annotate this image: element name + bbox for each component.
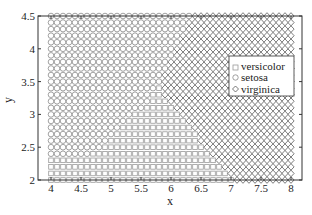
setosa-marker [102, 125, 108, 131]
virginica-marker [240, 105, 246, 112]
setosa-marker [96, 112, 102, 118]
virginica-marker [282, 111, 288, 118]
versicolor-marker [151, 151, 156, 156]
setosa-marker [66, 20, 72, 26]
virginica-marker [198, 124, 204, 131]
virginica-marker [240, 131, 246, 138]
virginica-marker [288, 124, 294, 131]
setosa-marker [54, 66, 60, 72]
setosa-marker [72, 39, 78, 45]
setosa-marker [84, 66, 90, 72]
setosa-marker [84, 33, 90, 39]
versicolor-marker [199, 151, 204, 156]
setosa-marker [120, 46, 126, 52]
versicolor-marker [181, 132, 186, 137]
setosa-marker [96, 125, 102, 131]
setosa-marker [90, 98, 96, 104]
versicolor-marker [115, 165, 120, 170]
setosa-marker [78, 46, 84, 52]
setosa-marker [138, 26, 144, 32]
versicolor-marker [175, 145, 180, 150]
setosa-marker [132, 85, 138, 91]
setosa-marker [90, 118, 96, 124]
versicolor-marker [169, 132, 174, 137]
setosa-marker [150, 26, 156, 32]
virginica-marker [228, 46, 234, 53]
virginica-marker [246, 137, 252, 144]
setosa-marker [126, 20, 132, 26]
versicolor-marker [145, 158, 150, 163]
virginica-marker [258, 131, 264, 138]
virginica-marker [252, 26, 258, 33]
versicolor-marker [133, 112, 138, 117]
virginica-marker [216, 157, 222, 164]
setosa-marker [66, 118, 72, 124]
versicolor-marker [109, 165, 114, 170]
virginica-marker [210, 39, 216, 46]
virginica-marker [204, 144, 210, 151]
setosa-marker [108, 33, 114, 39]
virginica-marker [258, 46, 264, 53]
setosa-marker [120, 112, 126, 118]
setosa-marker [126, 39, 132, 45]
versicolor-marker [151, 125, 156, 130]
virginica-marker [216, 39, 222, 46]
setosa-marker [78, 144, 84, 150]
setosa-marker [90, 39, 96, 45]
setosa-marker [72, 151, 78, 157]
virginica-marker [210, 144, 216, 151]
versicolor-marker [61, 158, 66, 163]
versicolor-marker [169, 125, 174, 130]
virginica-marker [180, 98, 186, 105]
virginica-marker [192, 59, 198, 66]
setosa-marker [66, 79, 72, 85]
virginica-marker [264, 170, 270, 177]
setosa-marker [60, 144, 66, 150]
setosa-marker [72, 125, 78, 131]
virginica-marker [270, 39, 276, 46]
setosa-marker [102, 92, 108, 98]
virginica-marker [234, 131, 240, 138]
setosa-marker [114, 92, 120, 98]
setosa-marker [84, 72, 90, 78]
setosa-marker [96, 92, 102, 98]
virginica-marker [216, 32, 222, 39]
setosa-marker [126, 92, 132, 98]
virginica-marker [246, 26, 252, 33]
versicolor-marker [157, 86, 162, 91]
virginica-marker [282, 144, 288, 151]
virginica-marker [168, 78, 174, 85]
virginica-marker [276, 170, 282, 177]
virginica-marker [198, 26, 204, 33]
versicolor-marker [157, 132, 162, 137]
virginica-marker [282, 118, 288, 125]
virginica-marker [246, 164, 252, 171]
virginica-marker [198, 52, 204, 59]
virginica-marker [192, 118, 198, 125]
versicolor-marker [79, 165, 84, 170]
virginica-marker [192, 32, 198, 39]
setosa-marker [54, 53, 60, 59]
setosa-marker [138, 72, 144, 78]
virginica-marker [252, 105, 258, 112]
setosa-marker [138, 39, 144, 45]
setosa-marker [54, 46, 60, 52]
setosa-marker [108, 72, 114, 78]
virginica-marker [198, 91, 204, 98]
virginica-marker [198, 46, 204, 53]
virginica-marker [234, 111, 240, 118]
versicolor-marker [109, 138, 114, 143]
versicolor-marker [211, 158, 216, 163]
virginica-marker [240, 150, 246, 157]
versicolor-marker [175, 125, 180, 130]
versicolor-marker [139, 145, 144, 150]
versicolor-marker [163, 138, 168, 143]
setosa-marker [48, 125, 54, 131]
setosa-marker [114, 85, 120, 91]
virginica-marker [216, 98, 222, 105]
virginica-marker [204, 26, 210, 33]
setosa-marker [102, 20, 108, 26]
versicolor-marker [169, 151, 174, 156]
setosa-marker [48, 138, 54, 144]
setosa-marker [54, 26, 60, 32]
